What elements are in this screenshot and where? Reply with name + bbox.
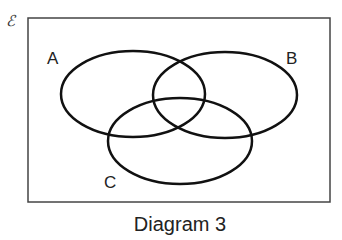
set-c-ellipse (108, 98, 252, 184)
universal-set-box (28, 18, 330, 202)
set-c-label: C (104, 173, 116, 192)
diagram-caption: Diagram 3 (134, 213, 226, 235)
universal-set-symbol: ℰ (6, 12, 17, 30)
set-a-label: A (47, 49, 59, 68)
set-a-ellipse (61, 51, 205, 137)
set-b-label: B (286, 49, 297, 68)
set-b-ellipse (153, 52, 297, 138)
venn-diagram: ℰ A B C Diagram 3 (0, 0, 342, 240)
